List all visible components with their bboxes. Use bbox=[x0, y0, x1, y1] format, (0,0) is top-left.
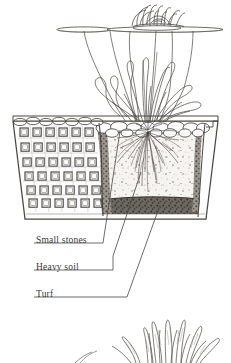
label-turf: Turf bbox=[36, 290, 53, 300]
label-heavy-soil: Heavy soil bbox=[36, 263, 79, 273]
figure-svg bbox=[0, 0, 231, 363]
illustration-canvas: Small stones Heavy soil Turf bbox=[0, 0, 231, 363]
sword-leaf-plant-vignette bbox=[75, 320, 219, 363]
mesh-planting-basket bbox=[13, 116, 218, 219]
lily-pad-centre bbox=[133, 26, 181, 31]
water-surface-group bbox=[57, 26, 223, 33]
submerged-foliage bbox=[95, 52, 201, 122]
water-lily-flower bbox=[132, 5, 185, 27]
label-small-stones: Small stones bbox=[36, 236, 87, 246]
